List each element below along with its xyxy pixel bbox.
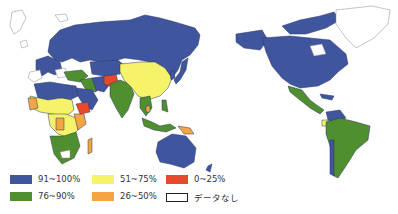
- region-west-africa-orange: [28, 98, 38, 110]
- legend-swatch-white: [166, 193, 188, 202]
- legend-swatch-blue: [10, 175, 32, 184]
- legend-label: 51~75%: [120, 174, 157, 184]
- legend-label: 26~50%: [120, 191, 157, 201]
- legend-swatch-green: [10, 192, 32, 201]
- legend-item-51-75: 51~75%: [92, 174, 157, 184]
- region-philippines: [162, 100, 168, 112]
- region-korea: [170, 70, 175, 80]
- region-iberia: [28, 70, 42, 82]
- legend-label: 0~25%: [194, 174, 225, 184]
- region-iceland: [10, 10, 26, 34]
- legend-item-0-25: 0~25%: [166, 174, 225, 184]
- legend-item-26-50: 26~50%: [92, 191, 157, 201]
- legend-item-91-100: 91~100%: [10, 174, 80, 184]
- region-chile: [330, 140, 334, 176]
- legend-swatch-yellow: [92, 175, 114, 184]
- region-indonesia: [142, 118, 176, 132]
- region-australia: [156, 134, 196, 168]
- region-mexico: [288, 86, 324, 114]
- region-africa-orange-mid: [56, 118, 64, 130]
- legend-swatch-red: [166, 175, 188, 184]
- region-north-america: [262, 36, 348, 88]
- region-cambodia: [146, 106, 150, 112]
- legend-item-76-90: 76~90%: [10, 191, 75, 201]
- legend-item-no-data: データなし: [166, 191, 239, 203]
- region-png: [178, 126, 194, 134]
- region-southern-africa: [50, 132, 80, 164]
- region-svalbard: [55, 14, 68, 22]
- region-north-africa-blue: [34, 82, 78, 100]
- map-legend: 91~100% 51~75% 0~25% 76~90% 26~50% データなし: [10, 174, 270, 210]
- region-madagascar: [88, 138, 92, 154]
- region-ireland: [20, 40, 28, 48]
- region-ethiopia: [76, 102, 90, 114]
- legend-label: 76~90%: [38, 191, 75, 201]
- legend-label: データなし: [194, 191, 239, 203]
- legend-swatch-orange: [92, 192, 114, 201]
- region-new-zealand: [206, 164, 212, 172]
- legend-label: 91~100%: [38, 174, 80, 184]
- region-canada-islands: [282, 12, 340, 34]
- region-cuba: [320, 94, 334, 100]
- region-greenland: [336, 6, 390, 48]
